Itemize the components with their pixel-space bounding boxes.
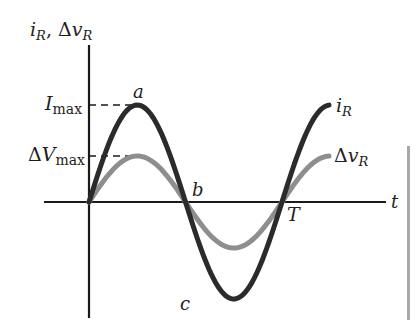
x-axis-label: t — [391, 191, 399, 212]
voltage-curve-label: ΔvR — [334, 144, 368, 169]
period-T-label: T — [287, 203, 301, 225]
point-c-label: c — [180, 293, 190, 314]
y-axis-label: iR, ΔvR — [30, 18, 92, 43]
point-a-label: a — [133, 81, 144, 102]
side-bar — [407, 146, 410, 320]
point-b-label: b — [192, 179, 204, 200]
current-curve-label: iR — [336, 94, 352, 119]
imax-label: Imax — [44, 92, 82, 117]
diagram-canvas: iR, ΔvR Imax ΔVmax a b c T t iR ΔvR — [0, 0, 416, 326]
vmax-label: ΔVmax — [28, 143, 85, 168]
